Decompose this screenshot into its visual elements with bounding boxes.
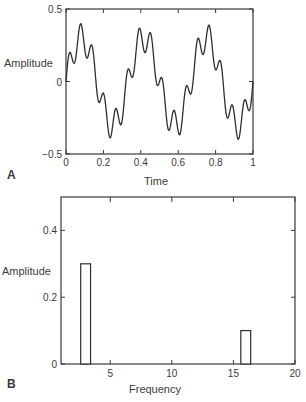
xlabel-b: Frequency xyxy=(129,383,181,395)
xtick-label: 10 xyxy=(166,368,178,379)
xtick-label: 0.8 xyxy=(209,157,223,168)
xtick-label: 5 xyxy=(107,368,113,379)
ytick-label: 0 xyxy=(51,359,57,370)
plot-area-b xyxy=(61,197,295,364)
xtick-label: 20 xyxy=(289,368,301,379)
xtick-label: 1 xyxy=(250,157,256,168)
ytick-label: 0 xyxy=(56,77,62,88)
xtick-label: 0.6 xyxy=(171,157,185,168)
signal-line xyxy=(66,24,253,140)
xlabel-a: Time xyxy=(144,175,168,187)
ylabel-b: Amplitude xyxy=(2,265,51,277)
figure: 00.20.40.60.81−0.500.5 Amplitude Time A … xyxy=(0,0,306,402)
ytick-label: 0.4 xyxy=(43,225,57,236)
xtick-label: 0.4 xyxy=(134,157,148,168)
xtick-label: 0.2 xyxy=(96,157,110,168)
ytick-label: 0.2 xyxy=(43,292,57,303)
ytick-label: −0.5 xyxy=(42,149,62,160)
panel-b: 510152000.20.4 Amplitude Frequency B xyxy=(2,197,301,395)
bars xyxy=(81,264,251,364)
panel-a: 00.20.40.60.81−0.500.5 Amplitude Time A xyxy=(4,4,256,187)
panel-label-b: B xyxy=(7,377,16,391)
xtick-label: 0 xyxy=(63,157,69,168)
xtick-label: 15 xyxy=(228,368,240,379)
panel-label-a: A xyxy=(7,168,16,182)
bar xyxy=(81,264,91,364)
ylabel-a: Amplitude xyxy=(4,57,53,69)
bar xyxy=(241,331,251,364)
axis-ticks-a: 00.20.40.60.81−0.500.5 xyxy=(42,4,256,168)
ytick-label: 0.5 xyxy=(48,4,62,15)
